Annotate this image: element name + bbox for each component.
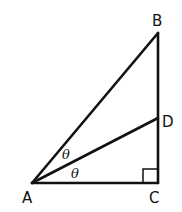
label-d: D [162, 113, 174, 131]
segment-ab [32, 33, 158, 183]
label-a: A [22, 189, 33, 207]
label-c: C [149, 189, 159, 207]
label-b: B [152, 12, 162, 30]
angle-label-bad: θ [62, 147, 70, 162]
triangle-diagram: B D A C θ θ [0, 0, 182, 212]
segment-ad [32, 118, 158, 183]
angle-label-dac: θ [71, 166, 79, 181]
right-angle-marker [143, 169, 158, 183]
